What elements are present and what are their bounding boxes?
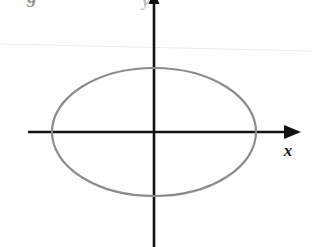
x-axis-label: x <box>283 141 293 160</box>
x-axis-arrowhead-icon <box>284 125 301 139</box>
coordinate-plane-diagram: x y g <box>0 0 312 247</box>
clipped-glyph-artifact: g <box>26 0 37 7</box>
y-axis-arrowhead-icon <box>149 0 160 4</box>
ruled-line-artifact <box>0 44 312 51</box>
y-axis-label: y <box>140 0 150 10</box>
figure-canvas: x y g <box>0 0 312 247</box>
